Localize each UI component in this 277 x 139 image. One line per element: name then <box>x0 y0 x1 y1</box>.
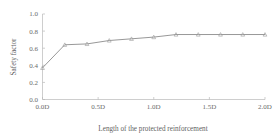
x-tick-label: 1.0D <box>147 103 161 111</box>
x-tick-label: 0.0D <box>36 103 50 111</box>
y-tick-label: 0.8 <box>29 28 38 36</box>
x-tick-label: 0.5D <box>91 103 105 111</box>
x-axis-title: Length of the protected reinforcement <box>98 125 207 133</box>
y-tick-label: 1.0 <box>29 10 38 18</box>
y-tick-label: 0.6 <box>29 45 38 53</box>
y-axis-title: Safety factor <box>10 38 18 76</box>
chart-figure: 0.00.20.40.60.81.0 0.0D0.5D1.0D1.5D2.0D … <box>0 0 277 139</box>
y-tick-label: 0.4 <box>29 62 38 70</box>
line-chart: 0.00.20.40.60.81.0 0.0D0.5D1.0D1.5D2.0D … <box>0 0 277 139</box>
x-tick-label: 2.0D <box>258 103 272 111</box>
y-tick-label: 0.2 <box>29 79 38 87</box>
x-tick-label: 1.5D <box>202 103 216 111</box>
